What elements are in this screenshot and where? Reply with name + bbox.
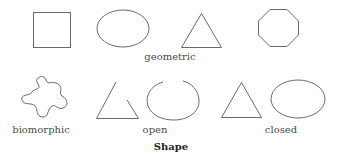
open-label: open bbox=[143, 124, 168, 136]
closed-ellipse-shape bbox=[271, 80, 325, 118]
geometric-label: geometric bbox=[144, 51, 195, 63]
square-shape bbox=[34, 13, 71, 48]
figure-title: Shape bbox=[154, 141, 188, 153]
octagon-shape bbox=[259, 10, 299, 47]
biomorphic-blob-shape bbox=[22, 77, 67, 117]
biomorphic-label: biomorphic bbox=[12, 124, 70, 136]
triangle-shape bbox=[182, 14, 222, 48]
closed-triangle-shape bbox=[222, 83, 262, 118]
ellipse-shape bbox=[97, 10, 149, 47]
open-triangle-shape bbox=[97, 82, 139, 119]
open-ellipse-shape bbox=[147, 81, 199, 120]
closed-label: closed bbox=[265, 124, 297, 136]
